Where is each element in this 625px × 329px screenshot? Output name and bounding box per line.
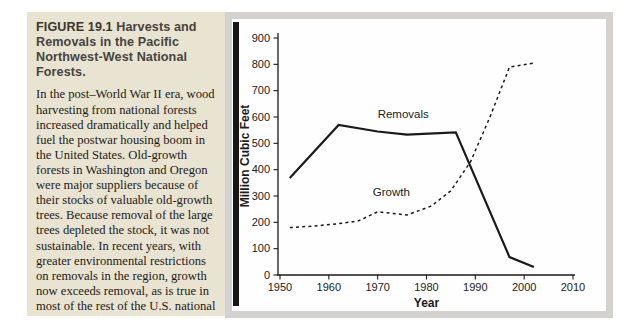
- y-axis-title: Million Cubic Feet: [238, 105, 252, 208]
- x-tick-label: 1980: [414, 281, 438, 293]
- y-tick-label: 900: [252, 32, 270, 44]
- y-tick-label: 500: [252, 137, 270, 149]
- figure-title: FIGURE 19.1 Harvests and Removals in the…: [36, 20, 219, 80]
- y-tick-label: 600: [252, 111, 270, 123]
- x-tick-label: 2000: [512, 281, 536, 293]
- series-removals-label: Removals: [378, 108, 429, 120]
- x-tick-label: 2010: [561, 281, 585, 293]
- series-growth-label: Growth: [373, 186, 410, 198]
- x-tick-label: 1970: [365, 281, 389, 293]
- x-axis-title: Year: [414, 296, 440, 310]
- figure-canvas: FIGURE 19.1 Harvests and Removals in the…: [0, 0, 625, 329]
- x-tick-label: 1960: [317, 281, 341, 293]
- figure-label: FIGURE 19.1: [36, 20, 113, 34]
- series-removals-line: [290, 125, 534, 267]
- y-tick-label: 100: [252, 242, 270, 254]
- figure-caption: In the post–World War II era, wood harve…: [36, 87, 219, 316]
- y-tick-label: 700: [252, 84, 270, 96]
- line-chart: 0100200300400500600700800900195019601970…: [232, 19, 606, 311]
- x-tick-label: 1950: [268, 281, 292, 293]
- series-growth-line: [290, 63, 534, 228]
- y-tick-label: 200: [252, 216, 270, 228]
- y-tick-label: 300: [252, 190, 270, 202]
- chart-frame: 0100200300400500600700800900195019601970…: [225, 12, 613, 318]
- caption-panel: FIGURE 19.1 Harvests and Removals in the…: [27, 12, 225, 316]
- x-tick-label: 1990: [463, 281, 487, 293]
- y-tick-label: 0: [264, 269, 270, 281]
- y-tick-label: 400: [252, 163, 270, 175]
- y-tick-label: 800: [252, 58, 270, 70]
